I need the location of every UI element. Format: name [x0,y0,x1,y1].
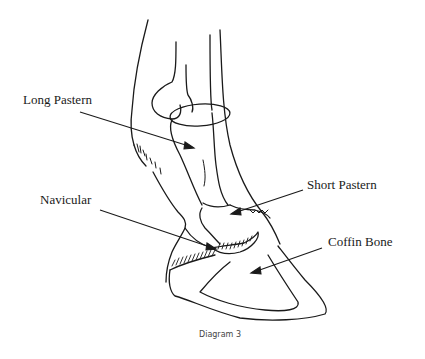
horse-hoof-diagram: Long Pastern Navicular Short Pastern Cof… [0,0,425,359]
label-long-pastern: Long Pastern [23,93,92,106]
long-pastern-pointer [80,112,192,147]
label-coffin-bone: Coffin Bone [328,235,392,248]
short-pastern-pointer [234,190,303,213]
navicular-pointer [100,210,213,248]
cannon-bone-end [169,102,230,128]
coffin-bone [200,255,298,311]
label-navicular: Navicular [40,193,91,206]
diagram-caption: Diagram 3 [199,331,241,339]
long-pastern-bone [170,113,228,205]
label-short-pastern: Short Pastern [307,178,377,191]
leg-front-outline-inner [210,35,212,110]
coffin-bone-pointer [254,248,322,272]
leg-back-outline [131,20,148,145]
hoof-wall-outer [169,246,326,320]
leg-front-outline-outer [220,30,280,244]
sesamoid-bone [152,42,181,119]
